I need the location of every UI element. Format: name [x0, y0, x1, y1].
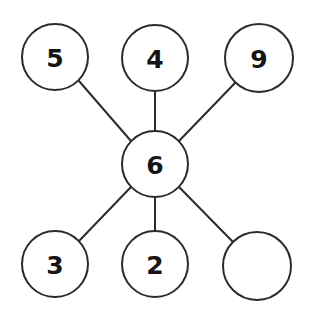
node-label-top-right: 9: [250, 45, 267, 74]
edge-hub-top-right: [179, 83, 235, 141]
node-label-top-left: 5: [46, 44, 63, 73]
node-center-hub[interactable]: 6: [122, 131, 188, 197]
node-circle-bottom-right[interactable]: [223, 232, 291, 300]
star-graph-diagram: 549632: [0, 0, 309, 315]
node-bottom-left[interactable]: 3: [22, 231, 88, 297]
node-label-center-hub: 6: [146, 151, 163, 180]
node-label-top-center: 4: [146, 45, 163, 74]
edge-hub-top-left: [79, 81, 131, 141]
node-bottom-right[interactable]: [223, 232, 291, 300]
node-top-right[interactable]: 9: [225, 24, 293, 92]
graph-canvas: 549632: [0, 0, 309, 315]
node-top-left[interactable]: 5: [22, 24, 88, 90]
node-label-bottom-center: 2: [146, 251, 163, 280]
nodes-layer: 549632: [22, 24, 293, 300]
node-bottom-center[interactable]: 2: [122, 231, 188, 297]
edge-hub-bottom-left: [79, 187, 131, 241]
node-label-bottom-left: 3: [46, 251, 63, 280]
node-top-center[interactable]: 4: [122, 25, 188, 91]
edge-hub-bottom-right: [179, 187, 234, 243]
